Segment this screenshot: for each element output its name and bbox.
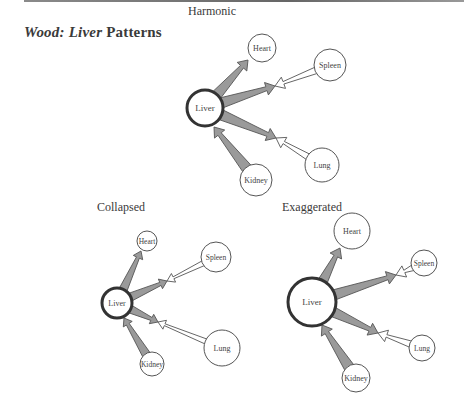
node-kidney: Kidney xyxy=(342,364,370,392)
node-label: Lung xyxy=(414,344,430,353)
node-label: Liver xyxy=(108,299,126,308)
node-label: Heart xyxy=(139,237,157,246)
arrow-lung-to-liver xyxy=(158,320,211,346)
node-label: Spleen xyxy=(206,253,227,262)
node-spleen: Spleen xyxy=(201,242,231,272)
diagram-harmonic: LiverHeartSpleenLungKidney xyxy=(187,34,346,196)
node-label: Kidney xyxy=(244,176,268,185)
node-lung: Lung xyxy=(305,148,339,182)
node-liver: Liver xyxy=(288,278,336,326)
node-label: Spleen xyxy=(319,61,341,70)
organ-network-canvas: LiverHeartSpleenLungKidney LiverHeartSpl… xyxy=(0,0,464,406)
node-kidney: Kidney xyxy=(240,164,272,196)
node-heart: Heart xyxy=(334,213,370,249)
diagram-exaggerated: LiverHeartSpleenLungKidney xyxy=(288,213,437,392)
node-heart: Heart xyxy=(248,34,276,62)
node-label: Lung xyxy=(214,344,231,353)
node-spleen: Spleen xyxy=(411,250,437,276)
node-label: Spleen xyxy=(414,259,435,268)
node-label: Heart xyxy=(253,44,272,53)
node-label: Kidney xyxy=(141,360,163,369)
node-liver: Liver xyxy=(102,288,132,318)
node-lung: Lung xyxy=(204,330,240,366)
node-label: Lung xyxy=(314,161,331,170)
node-label: Kidney xyxy=(344,374,368,383)
node-label: Heart xyxy=(343,227,362,236)
node-label: Liver xyxy=(302,297,322,307)
node-lung: Lung xyxy=(409,335,435,361)
node-spleen: Spleen xyxy=(314,49,346,81)
arrow-spleen-to-liver xyxy=(275,66,321,89)
node-heart: Heart xyxy=(137,231,157,251)
diagram-collapsed: LiverHeartSpleenLungKidney xyxy=(102,231,240,376)
node-kidney: Kidney xyxy=(140,352,164,376)
node-liver: Liver xyxy=(187,90,223,126)
node-label: Liver xyxy=(195,103,215,113)
